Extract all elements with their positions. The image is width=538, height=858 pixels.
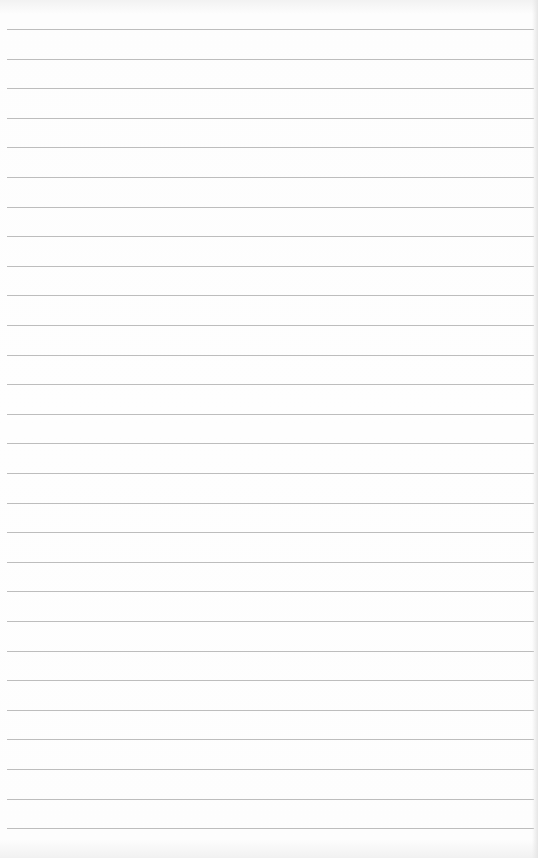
ruled-line: [7, 503, 534, 504]
ruled-line: [7, 443, 534, 444]
ruled-line: [7, 473, 534, 474]
ruled-line: [7, 532, 534, 533]
ruled-line: [7, 295, 534, 296]
ruled-line: [7, 769, 534, 770]
ruled-line: [7, 621, 534, 622]
ruled-line: [7, 414, 534, 415]
ruled-line: [7, 325, 534, 326]
ruled-line: [7, 739, 534, 740]
ruled-line: [7, 236, 534, 237]
ruled-paper-page: [0, 0, 538, 858]
ruled-line: [7, 651, 534, 652]
ruled-line: [7, 59, 534, 60]
ruled-line: [7, 384, 534, 385]
ruled-line: [7, 591, 534, 592]
ruled-line: [7, 710, 534, 711]
ruled-line: [7, 355, 534, 356]
ruled-line: [7, 266, 534, 267]
ruled-line: [7, 799, 534, 800]
ruled-line: [7, 562, 534, 563]
ruled-line: [7, 29, 534, 30]
ruled-line: [7, 680, 534, 681]
ruled-line: [7, 177, 534, 178]
ruled-line: [7, 118, 534, 119]
ruled-line: [7, 88, 534, 89]
ruled-line: [7, 207, 534, 208]
ruled-line: [7, 147, 534, 148]
ruled-line: [7, 828, 534, 829]
